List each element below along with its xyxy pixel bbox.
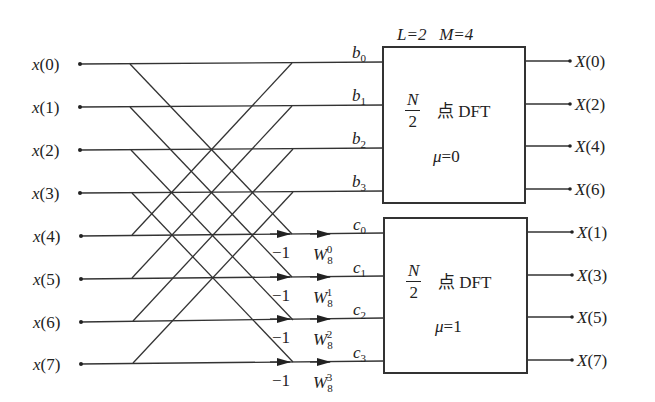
output-node bbox=[568, 59, 572, 63]
c-label: c3 bbox=[353, 344, 366, 364]
input-label: x(6) bbox=[33, 314, 60, 331]
output-node bbox=[568, 144, 572, 148]
output-label: X(0) bbox=[575, 53, 605, 70]
input-label: x(1) bbox=[32, 99, 59, 116]
input-label: x(0) bbox=[32, 56, 59, 73]
minus-one-label: −1 bbox=[272, 244, 290, 261]
input-label: x(2) bbox=[32, 142, 59, 159]
lower-block-fraction: N 2 bbox=[406, 262, 421, 301]
output-label: X(6) bbox=[575, 181, 605, 198]
b-label: b1 bbox=[352, 87, 366, 107]
input-label: x(5) bbox=[33, 271, 60, 288]
output-node bbox=[568, 102, 572, 106]
c-label: c1 bbox=[353, 259, 366, 279]
wire-row-4 bbox=[80, 233, 384, 236]
output-label: X(3) bbox=[577, 267, 607, 284]
twiddle-factor: W81 bbox=[313, 287, 332, 309]
output-label: X(2) bbox=[575, 96, 605, 113]
output-node bbox=[570, 273, 574, 277]
input-node bbox=[78, 148, 82, 152]
input-node bbox=[79, 234, 83, 238]
output-label: X(4) bbox=[575, 138, 605, 155]
input-node bbox=[79, 277, 83, 281]
twiddle-factor: W80 bbox=[313, 244, 332, 266]
b-label: b3 bbox=[352, 173, 366, 193]
input-node bbox=[78, 191, 82, 195]
wire-row-6 bbox=[80, 318, 384, 322]
output-node bbox=[570, 315, 574, 319]
params-label: L=2 M=4 bbox=[397, 26, 473, 43]
twiddle-factor: W83 bbox=[313, 372, 332, 394]
input-label: x(4) bbox=[33, 228, 60, 245]
output-label: X(1) bbox=[577, 224, 607, 241]
minus-one-label: −1 bbox=[272, 287, 290, 304]
lower-block-dft-text: 点 DFT bbox=[438, 274, 491, 291]
input-label: x(7) bbox=[33, 356, 60, 373]
output-node bbox=[570, 230, 574, 234]
twiddle-factor: W82 bbox=[313, 329, 332, 351]
upper-block-mu: μ=0 bbox=[433, 148, 460, 165]
input-node bbox=[79, 320, 83, 324]
output-node bbox=[570, 358, 574, 362]
lower-block-mu: μ=1 bbox=[435, 318, 462, 335]
wire-row-7 bbox=[80, 361, 384, 364]
input-node bbox=[78, 62, 82, 66]
wire-row-0 bbox=[80, 62, 384, 64]
output-label: X(5) bbox=[577, 309, 607, 326]
wire-row-1 bbox=[80, 105, 384, 107]
wire-row-5 bbox=[80, 276, 384, 279]
upper-block-fraction: N 2 bbox=[405, 91, 420, 130]
minus-one-label: −1 bbox=[272, 372, 290, 389]
wire-row-3 bbox=[80, 191, 384, 193]
b-label: b0 bbox=[352, 44, 366, 64]
wire-row-2 bbox=[80, 148, 384, 150]
output-label: X(7) bbox=[577, 352, 607, 369]
b-label: b2 bbox=[352, 130, 366, 150]
minus-one-label: −1 bbox=[272, 329, 290, 346]
output-node bbox=[568, 187, 572, 191]
c-label: c0 bbox=[353, 216, 366, 236]
input-label: x(3) bbox=[32, 185, 59, 202]
input-node bbox=[79, 362, 83, 366]
c-label: c2 bbox=[353, 301, 366, 321]
input-node bbox=[78, 105, 82, 109]
upper-block-dft-text: 点 DFT bbox=[437, 103, 490, 120]
